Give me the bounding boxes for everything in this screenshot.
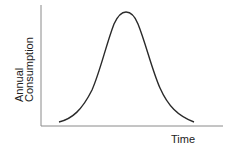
x-axis-label: Time xyxy=(171,133,195,145)
y-axis-label-line2: Consumption xyxy=(23,37,35,102)
chart: Annual Consumption Time xyxy=(0,0,234,148)
consumption-curve xyxy=(59,12,194,122)
